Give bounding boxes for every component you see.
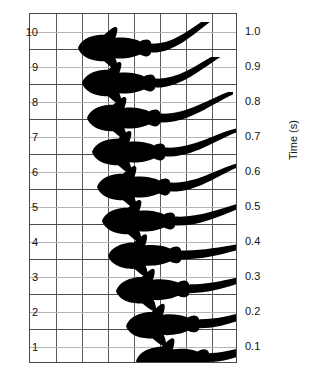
right-tick-label-time-0.3: 0.3 — [245, 271, 279, 282]
gridline-horizontal-major — [30, 49, 236, 50]
fish-silhouette-frame-7 — [88, 126, 237, 178]
gridline-horizontal-minor — [30, 347, 236, 348]
left-tick-label-frame-5: 5 — [14, 202, 38, 213]
gridline-horizontal-major — [30, 154, 236, 155]
left-tick-label-frame-4: 4 — [14, 237, 38, 248]
right-tick-label-time-0.8: 0.8 — [245, 96, 279, 107]
y-axis-title-time: Time (s) — [287, 120, 299, 160]
gridline-horizontal-minor — [30, 242, 236, 243]
fish-silhouette-frame-4 — [104, 228, 237, 283]
fish-silhouette-frame-3 — [111, 260, 237, 317]
gridline-horizontal-minor — [30, 67, 236, 68]
gridline-horizontal-major — [30, 259, 236, 260]
gridline-horizontal-minor — [30, 102, 236, 103]
right-tick-label-time-0.4: 0.4 — [245, 236, 279, 247]
left-tick-label-frame-8: 8 — [14, 97, 38, 108]
right-tick-label-time-0.2: 0.2 — [245, 306, 279, 317]
right-tick-label-time-0.6: 0.6 — [245, 166, 279, 177]
plot-area — [29, 13, 237, 363]
right-tick-label-time-0.5: 0.5 — [245, 201, 279, 212]
figure-canvas: 10987654321 1.00.90.80.70.60.50.40.30.20… — [0, 0, 313, 376]
left-tick-label-frame-1: 1 — [14, 342, 38, 353]
gridline-horizontal-minor — [30, 32, 236, 33]
gridline-horizontal-major — [30, 224, 236, 225]
gridline-horizontal-minor — [30, 137, 236, 138]
fish-silhouette-frame-5 — [98, 195, 237, 247]
left-tick-label-frame-3: 3 — [14, 272, 38, 283]
fish-silhouette-frame-6 — [93, 161, 237, 213]
gridline-horizontal-major — [30, 189, 236, 190]
left-tick-label-frame-6: 6 — [14, 167, 38, 178]
right-tick-label-time-0.9: 0.9 — [245, 61, 279, 72]
left-tick-label-frame-2: 2 — [14, 307, 38, 318]
gridline-horizontal-minor — [30, 277, 236, 278]
gridline-horizontal-minor — [30, 172, 236, 173]
gridline-horizontal-major — [30, 329, 236, 330]
gridline-horizontal-major — [30, 119, 236, 120]
right-tick-label-time-0.7: 0.7 — [245, 131, 279, 142]
left-tick-label-frame-9: 9 — [14, 62, 38, 73]
fish-silhouette-frame-2 — [121, 295, 237, 352]
gridline-horizontal-minor — [30, 312, 236, 313]
left-tick-label-frame-7: 7 — [14, 132, 38, 143]
gridline-horizontal-minor — [30, 207, 236, 208]
fish-silhouette-frame-1 — [131, 328, 237, 363]
gridline-horizontal-major — [30, 84, 236, 85]
right-tick-label-time-0.1: 0.1 — [245, 341, 279, 352]
right-tick-label-time-1.0: 1.0 — [245, 26, 279, 37]
left-tick-label-frame-10: 10 — [14, 27, 38, 38]
gridline-horizontal-major — [30, 294, 236, 295]
